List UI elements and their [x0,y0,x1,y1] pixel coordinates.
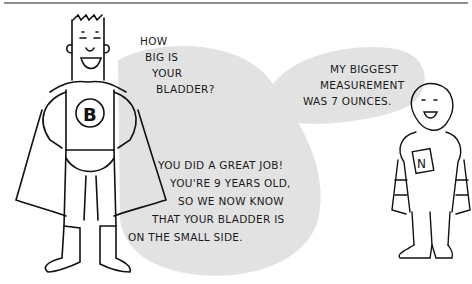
bubble-reply-line-2: YOU'RE 9 YEARS OLD, [170,176,291,191]
kid-bubble-line-3: WAS 7 OUNCES. [303,94,392,109]
bubble-reply-line-4: THAT YOUR BLADDER IS [152,212,285,227]
bubble-question-line-1: HOW [140,34,167,49]
kid-right: N [392,83,470,258]
bubble-reply-line-1: YOU DID A GREAT JOB! [158,158,283,173]
bubble-question-line-3: YOUR [152,66,182,81]
kid-bubble-line-2: MEASUREMENT [320,78,404,93]
bubble-question-line-4: BLADDER? [156,82,215,97]
svg-text:B: B [83,104,97,125]
svg-text:N: N [417,157,426,171]
bubble-reply-line-3: SO WE NOW KNOW [178,194,284,209]
kid-bubble-line-1: MY BIGGEST [330,62,398,77]
bubble-question-line-2: BIG IS [145,50,178,65]
bubble-reply-line-5: ON THE SMALL SIDE. [128,230,243,245]
